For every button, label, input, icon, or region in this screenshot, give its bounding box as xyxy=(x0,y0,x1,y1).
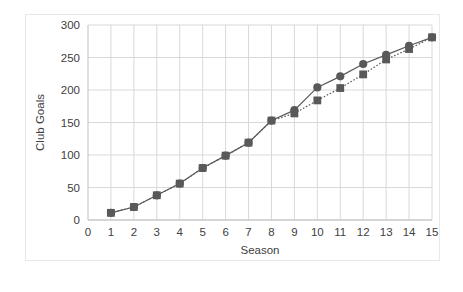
x-tick-label: 15 xyxy=(426,226,439,238)
x-tick-label: 2 xyxy=(131,226,137,238)
x-tick-label: 6 xyxy=(222,226,228,238)
x-tick-label: 14 xyxy=(403,226,416,238)
x-tick-label: 1 xyxy=(108,226,114,238)
x-tick-label: 9 xyxy=(291,226,297,238)
x-tick-label: 11 xyxy=(334,226,346,238)
y-tick-label: 200 xyxy=(61,84,80,96)
y-tick-label: 0 xyxy=(74,214,80,226)
x-tick-label: 8 xyxy=(268,226,274,238)
x-tick-label: 4 xyxy=(177,226,184,238)
x-tick-label: 13 xyxy=(380,226,393,238)
x-axis-title: Season xyxy=(240,244,279,256)
x-tick-label: 3 xyxy=(154,226,160,238)
x-tick-label: 10 xyxy=(311,226,324,238)
club-goals-line-chart: 0123456789101112131415 05010015020025030… xyxy=(26,15,439,260)
x-tick-label: 7 xyxy=(245,226,251,238)
y-axis-title: Club Goals xyxy=(34,94,46,151)
y-tick-label: 300 xyxy=(61,19,80,31)
y-tick-label: 250 xyxy=(61,52,80,64)
x-tick-label: 5 xyxy=(199,226,205,238)
x-tick-label: 0 xyxy=(85,226,91,238)
y-tick-label: 50 xyxy=(67,182,80,194)
y-tick-label: 100 xyxy=(61,149,80,161)
y-tick-label: 150 xyxy=(61,117,80,129)
chart-figure: 0123456789101112131415 05010015020025030… xyxy=(25,14,440,261)
x-tick-label: 12 xyxy=(357,226,370,238)
